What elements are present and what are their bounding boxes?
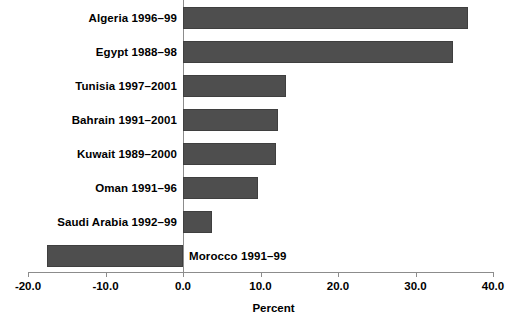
bar <box>183 211 212 233</box>
x-axis-tick <box>338 272 339 277</box>
bar <box>183 177 258 199</box>
bar-row: Kuwait 1989–2000 <box>0 143 507 165</box>
x-axis-tick-label: -20.0 <box>15 280 41 292</box>
x-axis-tick-label: 10.0 <box>249 280 271 292</box>
bar-category-label: Saudi Arabia 1992–99 <box>57 211 177 233</box>
bar <box>183 143 276 165</box>
bar-category-label: Algeria 1996–99 <box>89 7 177 29</box>
x-axis-tick <box>416 272 417 277</box>
bar <box>183 7 468 29</box>
bar-row: Saudi Arabia 1992–99 <box>0 211 507 233</box>
bar <box>183 41 453 63</box>
x-axis-tick-label: -10.0 <box>92 280 118 292</box>
x-axis-tick-label: 40.0 <box>482 280 504 292</box>
x-axis-tick <box>183 272 184 277</box>
bar <box>183 109 278 131</box>
x-axis-tick <box>106 272 107 277</box>
bar-row: Egypt 1988–98 <box>0 41 507 63</box>
x-axis-tick <box>261 272 262 277</box>
bar-row: Bahrain 1991–2001 <box>0 109 507 131</box>
bar-row: Oman 1991–96 <box>0 177 507 199</box>
bar-row: Morocco 1991–99 <box>0 245 507 267</box>
bar-chart: Algeria 1996–99Egypt 1988–98Tunisia 1997… <box>0 0 507 323</box>
bar-category-label: Oman 1991–96 <box>95 177 177 199</box>
bar-row: Tunisia 1997–2001 <box>0 75 507 97</box>
bar-category-label: Kuwait 1989–2000 <box>77 143 177 165</box>
bar-category-label: Bahrain 1991–2001 <box>72 109 177 131</box>
bar-row: Algeria 1996–99 <box>0 7 507 29</box>
bar-category-label: Tunisia 1997–2001 <box>75 75 177 97</box>
x-axis-title-wrap: Percent <box>0 302 507 314</box>
x-axis-tick-label: 30.0 <box>404 280 426 292</box>
bar-category-label: Egypt 1988–98 <box>96 41 177 63</box>
x-axis-tick <box>28 272 29 277</box>
x-axis-tick <box>493 272 494 277</box>
plot-area: Algeria 1996–99Egypt 1988–98Tunisia 1997… <box>0 0 507 272</box>
x-axis-tick-label: 0.0 <box>175 280 191 292</box>
x-axis-title: Percent <box>252 302 294 314</box>
x-axis-tick-label: 20.0 <box>327 280 349 292</box>
bar-category-label: Morocco 1991–99 <box>189 245 286 267</box>
bar <box>183 75 286 97</box>
bar <box>47 245 183 267</box>
